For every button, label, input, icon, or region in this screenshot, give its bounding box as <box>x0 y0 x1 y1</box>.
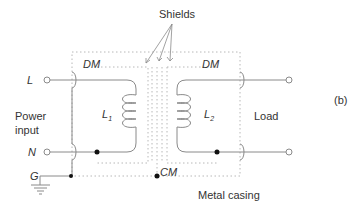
shields <box>97 67 217 176</box>
terminal-load-top <box>286 77 292 83</box>
junction-nodes <box>69 150 220 179</box>
line-terminal-label: L <box>27 74 33 86</box>
left-dm-label: DM <box>83 58 100 70</box>
metal-casing <box>72 52 240 176</box>
neutral-terminal-label: N <box>28 146 36 158</box>
load-label: Load <box>254 110 278 122</box>
cm-label: CM <box>160 166 177 178</box>
inductor-l1-label: L1 <box>102 108 112 122</box>
power-input-label-line1: Power <box>15 110 46 122</box>
metal-casing-label: Metal casing <box>198 189 260 201</box>
ground-terminal-label: G <box>30 170 39 182</box>
inductor-l2-label: L2 <box>204 108 214 122</box>
terminal-N <box>44 149 50 155</box>
panel-label: (b) <box>334 94 347 106</box>
shields-arrows <box>146 24 173 63</box>
shields-label: Shields <box>159 8 195 20</box>
terminal-L <box>44 77 50 83</box>
ground-icon <box>31 185 50 194</box>
power-input-label-line2: input <box>15 124 39 136</box>
right-dm-label: DM <box>202 58 219 70</box>
emi-filter-diagram <box>0 0 362 213</box>
terminal-load-bottom <box>286 149 292 155</box>
